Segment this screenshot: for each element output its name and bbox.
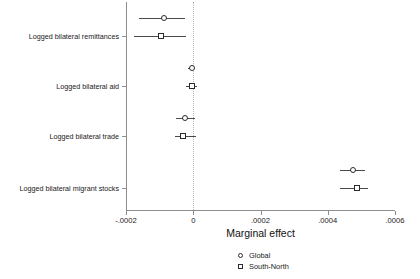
point-marker-global-icon [189, 65, 195, 71]
estimate-row [0, 32, 420, 42]
x-axis-title: Marginal effect [126, 227, 395, 239]
legend-marker-circle-icon [238, 253, 243, 258]
estimate-row [0, 114, 420, 124]
point-marker-south-north-icon [180, 133, 186, 139]
legend-marker-square-icon [238, 264, 243, 269]
estimate-row [0, 82, 420, 92]
x-axis-tick-label: .0004 [318, 216, 337, 225]
x-axis-tick-label: 0 [191, 216, 195, 225]
point-marker-south-north-icon [158, 33, 164, 39]
x-axis-tick [126, 211, 127, 215]
point-marker-global-icon [161, 15, 167, 21]
x-axis-tick-label: -.0002 [115, 216, 137, 225]
x-axis-tick-label: .0002 [251, 216, 270, 225]
estimate-row [0, 64, 420, 74]
estimate-row [0, 166, 420, 176]
x-axis-tick [193, 211, 194, 215]
x-axis-tick [395, 211, 396, 215]
point-marker-global-icon [182, 115, 188, 121]
estimate-row [0, 14, 420, 24]
point-marker-global-icon [350, 167, 356, 173]
legend-label-south-north: South-North [249, 261, 289, 272]
point-marker-south-north-icon [354, 185, 360, 191]
estimate-row [0, 132, 420, 142]
point-marker-south-north-icon [189, 83, 195, 89]
estimate-row [0, 184, 420, 194]
x-axis-tick [261, 211, 262, 215]
x-axis-tick [328, 211, 329, 215]
coefficient-plot: Logged bilateral remittances Logged bila… [0, 0, 420, 279]
legend-label-global: Global [249, 250, 270, 261]
x-axis-tick-label: .0006 [385, 216, 404, 225]
